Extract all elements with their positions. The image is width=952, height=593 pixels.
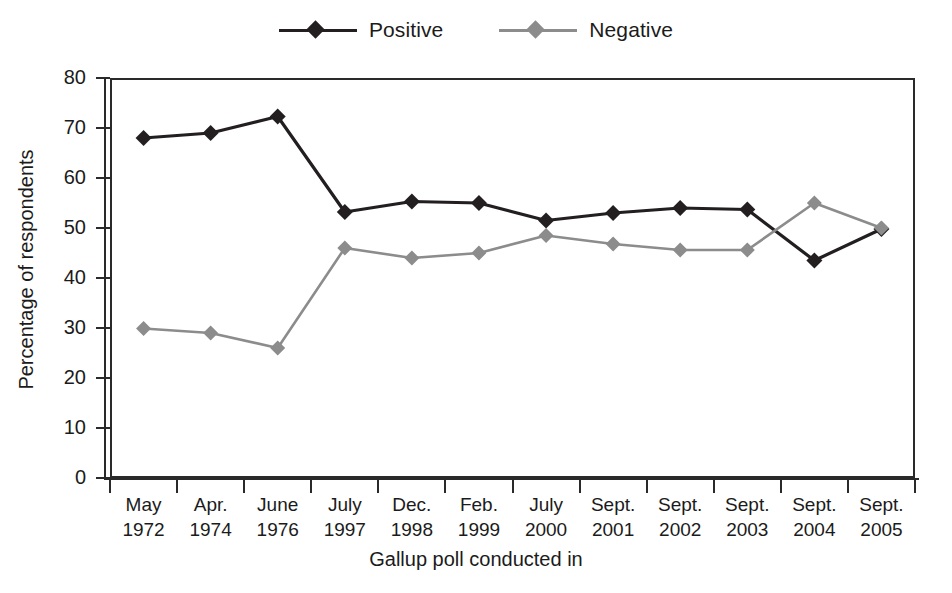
data-point-negative-8 [673, 243, 688, 258]
data-point-positive-1 [203, 125, 219, 141]
data-point-positive-6 [538, 213, 554, 229]
data-point-negative-6 [539, 228, 554, 243]
data-point-negative-3 [337, 241, 352, 256]
x-axis-title: Gallup poll conducted in [0, 548, 952, 571]
data-point-positive-8 [672, 200, 688, 216]
series-negative [136, 196, 889, 356]
data-point-negative-2 [270, 341, 285, 356]
gallup-poll-line-chart: Positive Negative Percentage of responde… [0, 0, 952, 593]
data-point-positive-7 [605, 205, 621, 221]
series-layer [0, 0, 952, 593]
data-point-positive-5 [471, 195, 487, 211]
data-point-negative-1 [203, 326, 218, 341]
data-point-positive-4 [404, 194, 420, 210]
series-line-negative [144, 203, 882, 348]
data-point-negative-0 [136, 321, 151, 336]
data-point-positive-0 [136, 130, 152, 146]
data-point-negative-4 [404, 251, 419, 266]
series-line-positive [144, 117, 882, 261]
data-point-negative-7 [606, 237, 621, 252]
data-point-negative-11 [874, 221, 889, 236]
data-point-negative-5 [471, 246, 486, 261]
